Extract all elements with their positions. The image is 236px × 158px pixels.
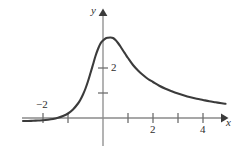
x-tick-label-minus2: −2 bbox=[36, 99, 48, 110]
axes-group bbox=[22, 9, 229, 147]
x-tick-label-2: 2 bbox=[150, 124, 156, 135]
y-tick-label-2: 2 bbox=[111, 62, 117, 73]
function-curve bbox=[23, 37, 226, 121]
y-axis-arrowhead bbox=[99, 9, 108, 17]
x-axis-label: x bbox=[226, 117, 231, 128]
x-tick-label-4: 4 bbox=[200, 124, 206, 135]
y-axis-label: y bbox=[91, 5, 96, 16]
function-graph-figure: −2 2 4 2 x y bbox=[0, 0, 236, 158]
